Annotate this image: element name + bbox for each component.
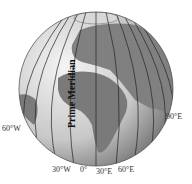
- label-60w: 60°W: [2, 124, 21, 133]
- label-60e: 60°E: [118, 165, 134, 174]
- globe-diagram: Prime Meridian 60°W 30°W 0° 30°E 60°E 90…: [0, 0, 192, 184]
- label-90e: 90°E: [166, 112, 182, 121]
- label-0: 0°: [80, 165, 87, 174]
- label-30w: 30°W: [52, 165, 71, 174]
- label-30e: 30°E: [96, 167, 112, 176]
- prime-meridian-label: Prime Meridian: [66, 59, 77, 128]
